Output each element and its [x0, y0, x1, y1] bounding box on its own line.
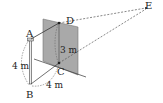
- point-C: [58, 62, 61, 65]
- label-B: B: [26, 89, 33, 100]
- point-D: [58, 22, 61, 25]
- label-A: A: [25, 28, 34, 39]
- label-D: D: [66, 15, 74, 26]
- measure-CD: 3 m: [60, 45, 78, 55]
- measure-BC: 4 m: [46, 80, 64, 90]
- pole: [30, 40, 32, 84]
- label-C: C: [57, 66, 65, 77]
- measure-AB: 4 m: [12, 61, 30, 71]
- label-E: E: [145, 0, 152, 11]
- diagram-canvas: A B C D E 4 m 4 m 3 m: [0, 0, 163, 103]
